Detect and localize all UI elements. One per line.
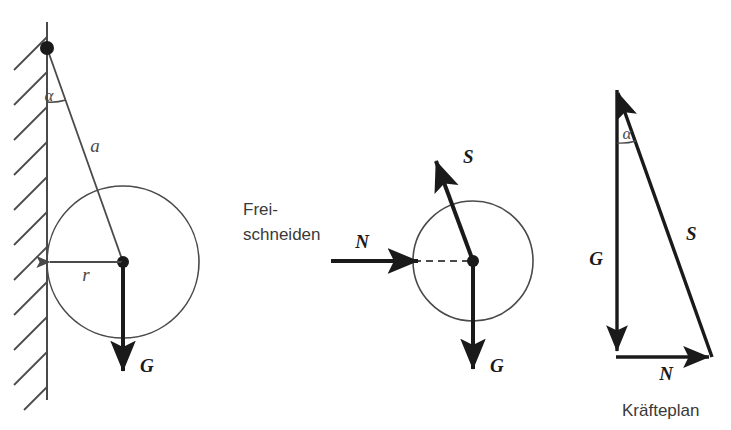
caption-line-2: schneiden [243, 225, 321, 244]
left-diagram-group: α a r G [14, 22, 199, 410]
middle-diagram-group: N S G [331, 146, 533, 376]
label-G-middle: G [490, 355, 504, 376]
label-S-middle: S [463, 146, 474, 167]
label-alpha-left: α [45, 86, 55, 105]
rope-line [47, 48, 123, 262]
freischneiden-caption: Frei- schneiden [243, 200, 321, 244]
label-r: r [82, 264, 90, 285]
label-S-triangle: S [686, 223, 697, 244]
label-G-triangle: G [589, 248, 603, 269]
label-N-triangle: N [658, 363, 674, 384]
mechanics-figure: α a r G Frei- schneiden N S G [0, 0, 731, 430]
label-a: a [90, 135, 100, 156]
force-triangle-S-vector [618, 93, 712, 357]
right-diagram-group: S G N α Kräfteplan [589, 90, 712, 420]
rope-force-vector [436, 161, 473, 261]
kraefteplan-caption: Kräfteplan [622, 401, 700, 420]
wall-hatching [14, 37, 47, 410]
label-N-middle: N [354, 231, 370, 252]
label-alpha-triangle: α [623, 124, 633, 143]
caption-line-1: Frei- [243, 200, 278, 219]
fbd-center-point [467, 255, 479, 267]
label-G-left: G [140, 355, 154, 376]
pivot-point [40, 41, 54, 55]
